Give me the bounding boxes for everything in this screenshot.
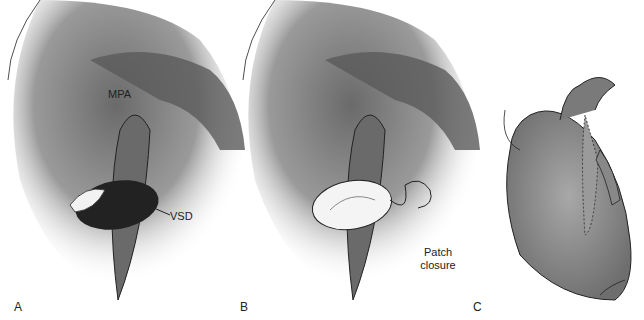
patch-closure-label: Patch closure	[418, 246, 458, 272]
illustration-canvas	[0, 0, 644, 320]
vsd-label: VSD	[170, 210, 193, 223]
patch-label-line1: Patch	[418, 246, 458, 259]
patch-label-line2: closure	[418, 259, 458, 272]
panel-label-c: C	[473, 300, 482, 314]
mpa-label: MPA	[108, 88, 131, 101]
panel-a-drawing	[8, 0, 245, 300]
panel-label-a: A	[14, 300, 22, 314]
panel-label-b: B	[240, 300, 248, 314]
panel-c-drawing	[504, 78, 631, 301]
